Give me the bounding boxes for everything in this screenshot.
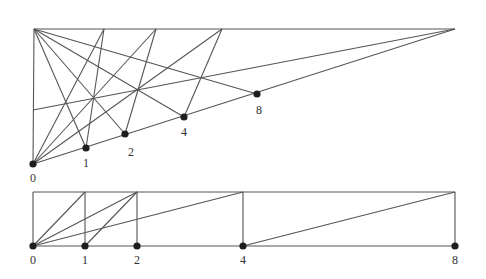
left-wall — [33, 29, 34, 164]
lower-diag-4-8 — [243, 192, 455, 246]
apex-to-4 — [34, 29, 184, 117]
point-1 — [82, 144, 89, 151]
lower-point-1 — [81, 242, 88, 249]
lower-label-1: 1 — [82, 253, 88, 267]
label-8: 8 — [256, 103, 262, 117]
lower-diag-0-1 — [33, 192, 85, 246]
lower-diag-1-2 — [85, 192, 137, 246]
lower-point-8 — [451, 242, 458, 249]
lower-label-8: 8 — [452, 253, 458, 267]
label-0: 0 — [30, 171, 36, 185]
baseline — [33, 29, 455, 164]
lower-diag-0-4 — [33, 192, 243, 246]
lower-point-0 — [29, 242, 36, 249]
point-0 — [29, 160, 36, 167]
apex-to-1 — [34, 29, 86, 148]
zero-to-t3 — [33, 29, 222, 164]
two-to-t2 — [125, 29, 156, 134]
lower-label-2: 2 — [134, 253, 140, 267]
apex-to-2 — [34, 29, 125, 134]
lower-point-2 — [133, 242, 140, 249]
label-2: 2 — [128, 145, 134, 159]
point-2 — [121, 130, 128, 137]
lower-label-0: 0 — [30, 253, 36, 267]
upper-diagram: 0 1 2 4 8 0 1 2 4 8 — [0, 0, 486, 279]
wall-to-apex-line — [33, 29, 455, 110]
lower-label-4: 4 — [240, 253, 246, 267]
lower-diagram: 0 1 2 4 8 — [29, 192, 458, 267]
point-8 — [253, 90, 260, 97]
lower-point-4 — [239, 242, 246, 249]
point-4 — [180, 113, 187, 120]
label-1: 1 — [83, 156, 89, 170]
label-4: 4 — [181, 125, 187, 139]
